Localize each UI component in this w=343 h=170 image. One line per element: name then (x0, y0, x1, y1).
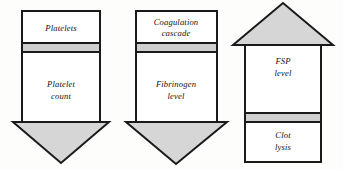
clot-lysis-label-line-1: Clot (275, 130, 291, 140)
fibrinogen-level-label-line-1: Fibrinogen (155, 79, 196, 89)
clot-lysis-label-line-2: lysis (275, 142, 292, 152)
diagram-canvas: Platelets Platelet count Coagulation cas… (0, 0, 343, 170)
fsp-divider-band (246, 113, 320, 122)
coagulation-cascade-label-line-2: cascade (162, 28, 191, 38)
coagulation-arrow: Coagulation cascade Fibrinogen level (126, 11, 227, 164)
fibrinogen-level-label-line-2: level (168, 91, 185, 101)
arrows-diagram: Platelets Platelet count Coagulation cas… (0, 0, 343, 170)
platelets-divider-band (23, 43, 99, 52)
fsp-arrow: FSP level Clot lysis (233, 3, 333, 162)
fsp-arrow-head (233, 3, 333, 45)
platelets-arrow: Platelets Platelet count (13, 11, 109, 163)
platelet-count-label-line-1: Platelet (46, 79, 75, 89)
platelets-label-line-1: Platelets (44, 23, 77, 33)
coagulation-divider-band (137, 43, 216, 52)
coagulation-arrow-head (126, 122, 227, 164)
fsp-level-label-line-2: level (275, 68, 292, 78)
platelet-count-label-line-2: count (51, 91, 71, 101)
coagulation-cascade-label-line-1: Coagulation (154, 17, 199, 27)
platelets-arrow-head (13, 122, 109, 163)
fsp-level-label-line-1: FSP (274, 56, 291, 66)
